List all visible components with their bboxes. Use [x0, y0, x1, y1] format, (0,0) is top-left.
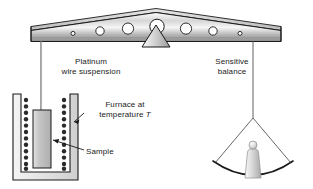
label-furnace-temperature: Furnace at temperature T	[87, 100, 163, 120]
label-furnace-line1: Furnace at	[105, 100, 144, 109]
label-sample: Sample	[86, 147, 128, 157]
furnace-heating-coil-left	[24, 98, 28, 171]
beam-hole-2	[96, 27, 104, 35]
beam-hole-3	[122, 23, 133, 34]
beam-hole-6	[209, 27, 217, 35]
calibration-weight	[245, 141, 261, 178]
sample-leader-arrowhead	[53, 139, 59, 143]
weight-body	[245, 149, 261, 178]
label-platinum-wire-suspension: Platinum wire suspension	[50, 57, 132, 77]
diagram-canvas	[0, 0, 313, 189]
tga-apparatus-diagram: Platinum wire suspension Sensitive balan…	[0, 0, 313, 189]
label-furnace-symbol-T: T	[146, 110, 151, 119]
beam-hole-5	[180, 23, 191, 34]
weight-knob	[249, 141, 257, 149]
label-sensitive-balance: Sensitive balance	[198, 57, 266, 77]
beam-hole-1	[71, 31, 75, 35]
platinum-wire-suspension	[41, 42, 42, 113]
annotation-leaders	[53, 113, 84, 150]
beam-hole-7	[238, 31, 242, 35]
furnace-heating-coil-right	[62, 98, 66, 171]
sample-block	[33, 110, 51, 168]
label-furnace-line2: temperature	[99, 110, 146, 119]
sample-rect	[33, 110, 51, 168]
